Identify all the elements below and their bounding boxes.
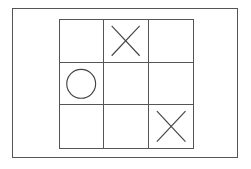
board-cell-r0-c1[interactable]	[104, 20, 148, 63]
tic-tac-toe-board	[59, 19, 194, 149]
board-cell-r1-c1[interactable]	[104, 63, 148, 106]
o-mark-icon	[60, 63, 103, 105]
x-mark-icon	[104, 20, 147, 62]
board-cell-r2-c0[interactable]	[60, 105, 104, 148]
board-cell-r2-c1[interactable]	[104, 105, 148, 148]
board-cell-r0-c2[interactable]	[149, 20, 193, 63]
board-cell-r1-c0[interactable]	[60, 63, 104, 106]
board-cell-r0-c0[interactable]	[60, 20, 104, 63]
board-cell-r2-c2[interactable]	[149, 105, 193, 148]
board-cell-r1-c2[interactable]	[149, 63, 193, 106]
x-mark-icon	[149, 105, 193, 148]
